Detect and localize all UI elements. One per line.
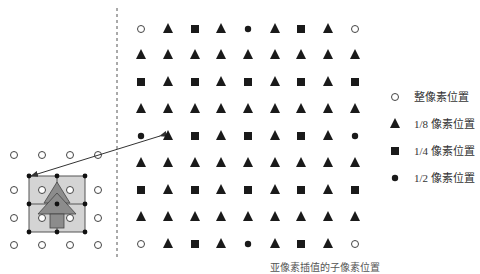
- eighth-pixel-marker: [190, 211, 200, 221]
- eighth-pixel-marker: [243, 103, 253, 113]
- eighth-pixel-marker: [216, 23, 226, 33]
- integer-pixel-marker: [95, 215, 102, 222]
- eighth-pixel-marker: [216, 211, 226, 221]
- integer-pixel-marker: [11, 215, 18, 222]
- eighth-pixel-marker: [270, 76, 280, 86]
- quarter-pixel-marker: [297, 25, 305, 33]
- quarter-pixel-marker: [191, 78, 199, 86]
- eighth-pixel-marker: [136, 49, 146, 59]
- eighth-pixel-marker: [136, 103, 146, 113]
- eighth-pixel-marker: [216, 157, 226, 167]
- eighth-pixel-marker: [270, 49, 280, 59]
- integer-pixel-marker: [95, 242, 102, 249]
- quarter-pixel-marker: [191, 132, 199, 140]
- eighth-pixel-marker: [350, 157, 360, 167]
- eighth-pixel-marker: [390, 118, 400, 128]
- integer-pixel-marker: [392, 94, 399, 101]
- eighth-pixel-marker: [163, 157, 173, 167]
- eighth-pixel-marker: [270, 103, 280, 113]
- legend-label: 1/4 像素位置: [414, 144, 475, 158]
- integer-pixel-marker: [11, 187, 18, 194]
- eighth-pixel-marker: [243, 49, 253, 59]
- quarter-pixel-marker: [351, 186, 359, 194]
- half-pixel-marker: [245, 26, 251, 32]
- eighth-pixel-marker: [136, 157, 146, 167]
- legend-label: 1/2 像素位置: [414, 171, 475, 185]
- quarter-pixel-marker: [244, 186, 252, 194]
- reference-block: [27, 174, 88, 235]
- half-pixel-marker: [392, 175, 398, 181]
- eighth-pixel-marker: [270, 211, 280, 221]
- eighth-pixel-marker: [296, 157, 306, 167]
- eighth-pixel-marker: [216, 103, 226, 113]
- eighth-pixel-marker: [163, 103, 173, 113]
- integer-pixel-marker: [39, 187, 46, 194]
- integer-pixel-marker: [352, 26, 359, 33]
- eighth-pixel-marker: [323, 76, 333, 86]
- eighth-pixel-marker: [270, 130, 280, 140]
- eighth-pixel-marker: [163, 184, 173, 194]
- half-pixel-marker: [245, 241, 251, 247]
- integer-pixel-marker: [67, 152, 74, 159]
- eighth-pixel-marker: [296, 211, 306, 221]
- eighth-pixel-marker: [323, 130, 333, 140]
- eighth-pixel-marker: [270, 238, 280, 248]
- legend-label: 整像素位置: [414, 90, 469, 104]
- legend-label: 1/8 像素位置: [414, 117, 475, 131]
- eighth-pixel-marker: [163, 76, 173, 86]
- integer-pixel-marker: [95, 187, 102, 194]
- eighth-pixel-marker: [216, 76, 226, 86]
- eighth-pixel-marker: [216, 49, 226, 59]
- eighth-pixel-marker: [136, 211, 146, 221]
- quarter-pixel-marker: [351, 78, 359, 86]
- eighth-pixel-marker: [216, 238, 226, 248]
- eighth-pixel-marker: [350, 211, 360, 221]
- quarter-pixel-marker: [244, 78, 252, 86]
- integer-pixel-marker: [138, 26, 145, 33]
- eighth-pixel-marker: [350, 49, 360, 59]
- eighth-pixel-marker: [216, 130, 226, 140]
- legend-symbols: [390, 94, 400, 182]
- quarter-pixel-marker: [191, 25, 199, 33]
- eighth-pixel-marker: [163, 23, 173, 33]
- subpixel-grid: [136, 23, 360, 248]
- quarter-pixel-marker: [297, 240, 305, 248]
- integer-pixel-marker: [352, 241, 359, 248]
- integer-pixel-marker: [11, 152, 18, 159]
- integer-pixel-marker: [11, 242, 18, 249]
- eighth-pixel-marker: [323, 211, 333, 221]
- quarter-pixel-marker: [391, 147, 399, 155]
- integer-pixel-marker: [39, 152, 46, 159]
- half-pixel-marker: [352, 133, 358, 139]
- eighth-pixel-marker: [243, 157, 253, 167]
- eighth-pixel-marker: [243, 211, 253, 221]
- eighth-pixel-marker: [190, 103, 200, 113]
- eighth-pixel-marker: [270, 23, 280, 33]
- quarter-pixel-marker: [191, 240, 199, 248]
- eighth-pixel-marker: [163, 130, 173, 140]
- eighth-pixel-marker: [323, 103, 333, 113]
- eighth-pixel-marker: [216, 184, 226, 194]
- eighth-pixel-marker: [270, 157, 280, 167]
- eighth-pixel-marker: [323, 184, 333, 194]
- half-pixel-marker: [138, 133, 144, 139]
- quarter-pixel-marker: [297, 78, 305, 86]
- figure-caption: 亚像素插值的子像素位置: [230, 262, 420, 274]
- quarter-pixel-marker: [297, 132, 305, 140]
- eighth-pixel-marker: [323, 238, 333, 248]
- quarter-pixel-marker: [191, 186, 199, 194]
- integer-pixel-marker: [39, 242, 46, 249]
- eighth-pixel-marker: [270, 184, 280, 194]
- integer-pixel-marker: [67, 187, 74, 194]
- integer-pixel-marker: [39, 215, 46, 222]
- eighth-pixel-marker: [163, 49, 173, 59]
- integer-pixel-marker: [67, 215, 74, 222]
- integer-pixel-marker: [138, 241, 145, 248]
- quarter-pixel-marker: [297, 186, 305, 194]
- eighth-pixel-marker: [323, 157, 333, 167]
- eighth-pixel-marker: [296, 103, 306, 113]
- quarter-pixel-marker: [244, 132, 252, 140]
- eighth-pixel-marker: [190, 49, 200, 59]
- eighth-pixel-marker: [190, 157, 200, 167]
